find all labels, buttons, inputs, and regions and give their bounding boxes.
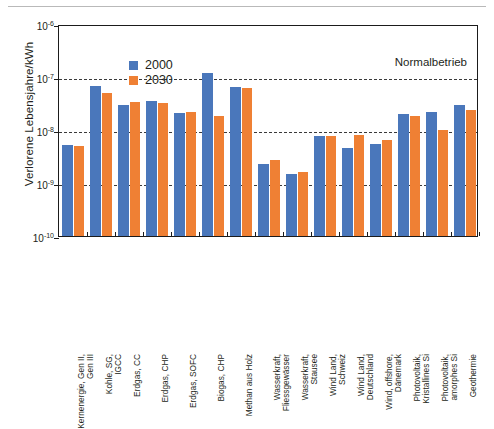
- bar-2000[interactable]: [286, 174, 297, 236]
- bar-2030[interactable]: [130, 102, 141, 236]
- x-category-label-line: Erdgas, CHP: [161, 354, 170, 402]
- bar-2030[interactable]: [354, 135, 365, 236]
- legend-item-2030[interactable]: 2030: [129, 73, 173, 88]
- legend-label: 2000: [145, 59, 173, 72]
- x-tick: [87, 232, 88, 236]
- x-tick: [451, 232, 452, 236]
- bar-2030[interactable]: [74, 146, 85, 236]
- x-tick: [311, 232, 312, 236]
- x-category-label: Wasserkraft,Stausee: [301, 354, 319, 400]
- bar-2000[interactable]: [118, 105, 129, 236]
- bar-2000[interactable]: [230, 87, 241, 236]
- x-category-label-line: Erdgas, SOFC: [189, 354, 198, 408]
- x-category-label: Erdgas, CC: [133, 354, 142, 397]
- bar-2000[interactable]: [314, 136, 325, 236]
- x-category-label-line: Deutschland: [366, 354, 375, 400]
- bar-2000[interactable]: [258, 164, 269, 236]
- bar-2030[interactable]: [102, 93, 113, 237]
- y-tick-label: 10-6: [37, 20, 54, 32]
- x-category-label-line: Fliessgewässer: [282, 354, 291, 411]
- x-tick: [227, 232, 228, 236]
- chart-annotation: Normalbetrieb: [395, 56, 467, 68]
- bar-2000[interactable]: [202, 73, 213, 236]
- bar-2030[interactable]: [326, 136, 337, 236]
- x-category-label: Wind Land,Schweiz: [329, 354, 347, 396]
- x-category-label: Wasserkraft,Fliessgewässer: [273, 354, 291, 411]
- bar-2030[interactable]: [242, 88, 253, 236]
- x-category-label-line: Erdgas, CC: [133, 354, 142, 397]
- x-category-label-line: Geothermie: [469, 354, 478, 397]
- top-divider: [8, 6, 486, 7]
- x-category-label: Wind, offshore,Dänemark: [385, 354, 403, 410]
- x-category-label-line: Schweiz: [338, 354, 347, 396]
- bar-2000[interactable]: [174, 113, 185, 236]
- x-tick: [423, 232, 424, 236]
- legend-swatch-icon: [129, 76, 138, 85]
- x-category-label: Wind Land,Deutschland: [357, 354, 375, 400]
- bar-2030[interactable]: [298, 172, 309, 236]
- x-category-label: Erdgas, SOFC: [189, 354, 198, 408]
- x-category-label-line: IGCC: [114, 354, 123, 394]
- y-tick-label: 10-10: [33, 232, 54, 244]
- bar-2000[interactable]: [90, 86, 101, 236]
- y-tick-label: 10-7: [37, 73, 54, 85]
- x-category-label-line: Biogas, CHP: [217, 354, 226, 402]
- x-tick: [115, 232, 116, 236]
- y-tick: [54, 238, 59, 239]
- bar-2030[interactable]: [438, 130, 449, 236]
- x-tick: [143, 232, 144, 236]
- x-category-label: Photovoltaik,amorphes Si: [441, 354, 459, 402]
- legend: 2000 2030: [125, 55, 179, 92]
- x-category-label-line: Methan aus Holz: [245, 354, 254, 416]
- x-tick: [479, 232, 480, 236]
- x-tick: [255, 232, 256, 236]
- bar-2030[interactable]: [158, 103, 169, 236]
- bar-2030[interactable]: [186, 112, 197, 236]
- bar-2000[interactable]: [370, 144, 381, 236]
- bar-2030[interactable]: [410, 116, 421, 236]
- bar-2030[interactable]: [382, 140, 393, 236]
- x-tick: [171, 232, 172, 236]
- x-category-label: Kernenergie, Gen II,Gen III: [77, 354, 95, 429]
- x-category-label: Photovoltaik,Kristallines Si: [413, 354, 431, 404]
- x-category-label: Biogas, CHP: [217, 354, 226, 402]
- y-tick-label: 10-9: [37, 179, 54, 191]
- x-category-label-line: Kristallines Si: [422, 354, 431, 404]
- bar-2000[interactable]: [426, 112, 437, 236]
- x-tick: [339, 232, 340, 236]
- x-category-label-line: Dänemark: [394, 354, 403, 410]
- bar-2030[interactable]: [270, 160, 281, 236]
- x-category-label-line: Gen III: [86, 354, 95, 429]
- x-category-label: Methan aus Holz: [245, 354, 254, 416]
- bar-2030[interactable]: [466, 110, 477, 236]
- bar-2000[interactable]: [342, 148, 353, 236]
- plot-area: 10-610-710-810-910-10 2000 2030 Normalbe…: [58, 25, 478, 237]
- bar-2000[interactable]: [146, 101, 157, 236]
- x-tick: [367, 232, 368, 236]
- x-tick: [395, 232, 396, 236]
- x-category-label: Kohle, SG,IGCC: [105, 354, 123, 394]
- x-category-label: Erdgas, CHP: [161, 354, 170, 402]
- y-tick-label: 10-8: [37, 126, 54, 138]
- bar-2000[interactable]: [398, 114, 409, 236]
- x-category-label: Geothermie: [469, 354, 478, 397]
- bar-2030[interactable]: [214, 116, 225, 236]
- legend-item-2000[interactable]: 2000: [129, 58, 173, 73]
- legend-swatch-icon: [129, 61, 138, 70]
- x-category-label-line: amorphes Si: [450, 354, 459, 402]
- x-axis-category-labels: Kernenergie, Gen II,Gen IIIKohle, SG,IGC…: [58, 240, 478, 357]
- x-tick: [283, 232, 284, 236]
- y-axis-title: Verlorene Lebensjahre/kWh: [23, 0, 35, 229]
- bar-2000[interactable]: [62, 145, 73, 236]
- x-category-label-line: Stausee: [310, 354, 319, 400]
- legend-label: 2030: [145, 74, 173, 87]
- bar-2000[interactable]: [454, 105, 465, 236]
- x-tick: [199, 232, 200, 236]
